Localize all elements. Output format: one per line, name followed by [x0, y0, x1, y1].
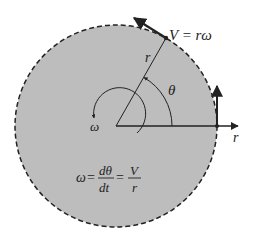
svg-text:dθ: dθ: [99, 163, 113, 178]
svg-text:ω: ω: [76, 170, 86, 185]
svg-text:dt: dt: [99, 180, 110, 195]
svg-text:=: =: [116, 170, 124, 185]
radius-label: r: [145, 50, 151, 65]
circular-motion-diagram: V = rω r θ ω r ω = dθ dt = V r: [0, 0, 255, 241]
point-on-rim: [164, 36, 168, 40]
rim-point-right: [215, 124, 219, 128]
svg-text:=: =: [87, 170, 95, 185]
theta-label: θ: [168, 82, 176, 98]
radial-axis-label: r: [233, 130, 239, 145]
velocity-label: V = rω: [169, 27, 212, 43]
omega-label: ω: [90, 119, 99, 134]
